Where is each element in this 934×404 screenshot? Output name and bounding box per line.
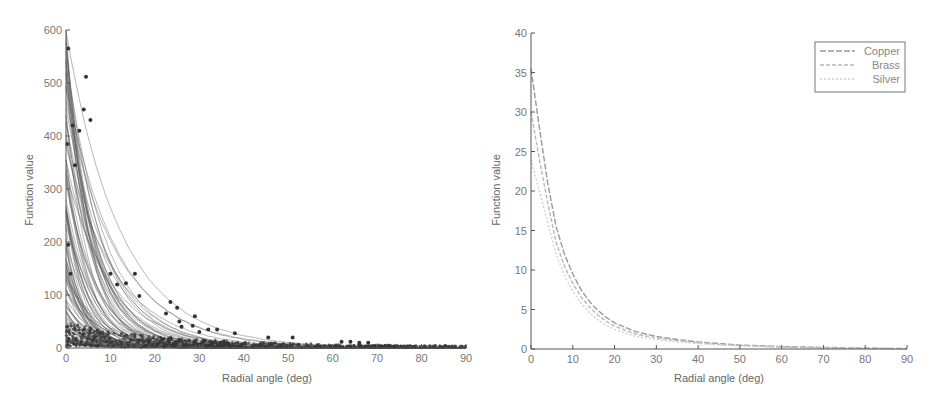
legend-label-copper: Copper bbox=[864, 45, 900, 57]
data-point bbox=[133, 272, 137, 276]
legend: CopperBrassSilver bbox=[815, 42, 905, 92]
right-y-tick-label: 20 bbox=[515, 185, 527, 197]
data-point bbox=[66, 243, 70, 247]
data-point bbox=[177, 320, 181, 324]
right-x-axis-label: Radial angle (deg) bbox=[674, 372, 764, 384]
left-x-tick-label: 40 bbox=[238, 352, 250, 364]
data-point bbox=[66, 47, 70, 51]
data-point bbox=[191, 324, 195, 328]
right-y-tick-label: 40 bbox=[515, 27, 527, 39]
right-x-tick-label: 10 bbox=[567, 353, 579, 365]
right-x-tick-label: 20 bbox=[608, 353, 620, 365]
right-x-tick-label: 40 bbox=[692, 353, 704, 365]
data-point bbox=[197, 330, 201, 334]
left-x-tick-label: 60 bbox=[327, 352, 339, 364]
data-point bbox=[348, 340, 352, 344]
left-y-tick-label: 600 bbox=[44, 24, 62, 36]
left-y-tick-label: 400 bbox=[44, 130, 62, 142]
data-point bbox=[206, 327, 210, 331]
left-x-tick-label: 30 bbox=[193, 352, 205, 364]
right-y-tick-label: 0 bbox=[521, 343, 527, 355]
right-x-tick-label: 50 bbox=[734, 353, 746, 365]
data-point bbox=[73, 163, 77, 167]
data-point bbox=[115, 282, 119, 286]
series-brass bbox=[531, 112, 907, 349]
right-curves bbox=[531, 69, 907, 349]
legend-label-silver: Silver bbox=[872, 73, 900, 85]
right-y-tick-label: 35 bbox=[515, 67, 527, 79]
data-point bbox=[366, 341, 370, 345]
right-y-tick-label: 5 bbox=[521, 304, 527, 316]
left-curve-family bbox=[65, 31, 467, 349]
right-x-tick-label: 90 bbox=[901, 353, 913, 365]
left-x-tick-label: 50 bbox=[282, 352, 294, 364]
right-y-axis-label: Function value bbox=[490, 154, 502, 226]
left-x-tick-label: 20 bbox=[149, 352, 161, 364]
left-x-tick-label: 90 bbox=[460, 352, 472, 364]
left-y-tick-label: 500 bbox=[44, 77, 62, 89]
left-x-tick-label: 0 bbox=[63, 352, 69, 364]
left-y-tick-label: 0 bbox=[56, 342, 62, 354]
data-point bbox=[84, 75, 88, 79]
data-point bbox=[88, 118, 92, 122]
right-x-tick-label: 0 bbox=[528, 353, 534, 365]
right-y-tick-label: 15 bbox=[515, 225, 527, 237]
data-point bbox=[340, 340, 344, 344]
data-point bbox=[71, 123, 75, 127]
right-y-tick-label: 10 bbox=[515, 264, 527, 276]
data-point bbox=[357, 341, 361, 345]
right-x-tick-label: 70 bbox=[817, 353, 829, 365]
data-point bbox=[68, 272, 72, 276]
right-x-tick-label: 60 bbox=[776, 353, 788, 365]
data-point bbox=[291, 335, 295, 339]
data-point bbox=[82, 108, 86, 112]
left-x-axis-label: Radial angle (deg) bbox=[222, 372, 312, 384]
data-point bbox=[233, 331, 237, 335]
figure: 01020304050607080900100200300400500600 R… bbox=[0, 0, 934, 404]
left-y-axis-label: Function value bbox=[23, 154, 35, 226]
data-point bbox=[164, 312, 168, 316]
data-point bbox=[180, 325, 184, 329]
left-chart: 01020304050607080900100200300400500600 R… bbox=[23, 24, 472, 384]
left-y-tick-label: 200 bbox=[44, 236, 62, 248]
left-x-tick-label: 70 bbox=[371, 352, 383, 364]
left-y-tick-label: 300 bbox=[44, 183, 62, 195]
right-x-tick-label: 80 bbox=[859, 353, 871, 365]
right-y-tick-label: 25 bbox=[515, 146, 527, 158]
right-chart: 01020304050607080900510152025303540 Radi… bbox=[490, 27, 913, 384]
data-point bbox=[124, 281, 128, 285]
series-silver bbox=[531, 159, 907, 348]
data-point bbox=[77, 129, 81, 133]
data-point bbox=[137, 294, 141, 298]
legend-label-brass: Brass bbox=[872, 59, 901, 71]
data-point bbox=[168, 300, 172, 304]
data-point bbox=[215, 327, 219, 331]
left-y-tick-label: 100 bbox=[44, 289, 62, 301]
data-point bbox=[193, 314, 197, 318]
data-point bbox=[266, 335, 270, 339]
series-copper bbox=[531, 69, 907, 349]
data-point bbox=[175, 306, 179, 310]
left-x-tick-label: 10 bbox=[104, 352, 116, 364]
data-point bbox=[108, 272, 112, 276]
right-x-tick-label: 30 bbox=[650, 353, 662, 365]
right-y-tick-label: 30 bbox=[515, 106, 527, 118]
left-x-tick-label: 80 bbox=[415, 352, 427, 364]
